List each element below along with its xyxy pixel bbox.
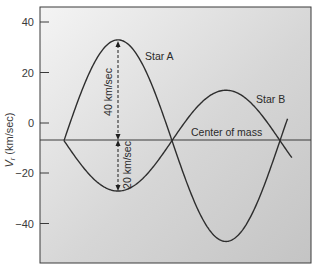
center-of-mass-label: Center of mass	[191, 126, 262, 138]
y-tick-minus-40: −40	[15, 218, 34, 230]
y-tick-0: 0	[28, 117, 34, 129]
amplitude-label-20: 20 km/sec	[121, 141, 133, 189]
star-b-label: Star B	[256, 93, 285, 105]
radial-velocity-chart: 40 20 0 −20 −40 Vr (km/sec) 40 km/sec 20…	[0, 0, 314, 271]
star-a-label: Star A	[145, 50, 174, 62]
y-axis-label: Vr (km/sec)	[3, 112, 17, 167]
y-tick-20: 20	[22, 67, 34, 79]
y-tick-minus-20: −20	[15, 167, 34, 179]
amplitude-label-40: 40 km/sec	[102, 68, 114, 116]
y-tick-40: 40	[22, 16, 34, 28]
